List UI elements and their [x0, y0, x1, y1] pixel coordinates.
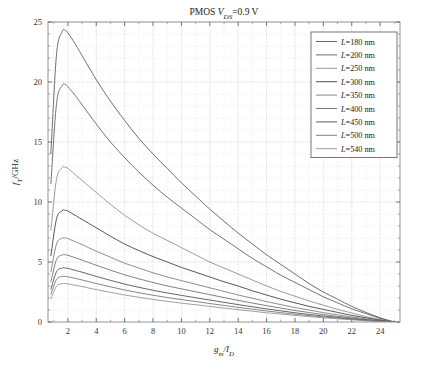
- legend-label: L=450 nm: [340, 118, 376, 127]
- legend-label: L=350 nm: [340, 91, 376, 100]
- legend-label: L=500 nm: [340, 131, 376, 140]
- x-tick-label: 16: [262, 326, 271, 336]
- y-tick-label: 5: [38, 257, 42, 267]
- x-tick-label: 2: [66, 326, 70, 336]
- y-tick-label: 15: [34, 137, 43, 147]
- x-tick-label: 14: [234, 326, 243, 336]
- legend-label: L=180 nm: [340, 38, 376, 47]
- x-tick-label: 24: [376, 326, 385, 336]
- x-tick-label: 8: [151, 326, 155, 336]
- figure-container: 24681012141618202224 0510152025 PMOS VDS…: [0, 0, 427, 369]
- y-tick-label: 10: [34, 197, 43, 207]
- legend-label: L=300 nm: [340, 78, 376, 87]
- legend-label: L=540 nm: [340, 145, 376, 154]
- y-tick-label: 20: [34, 77, 43, 87]
- legend-label: L=200 nm: [340, 51, 376, 60]
- x-tick-label: 20: [319, 326, 328, 336]
- y-tick-label: 0: [38, 317, 42, 327]
- x-tick-label: 12: [206, 326, 215, 336]
- x-tick-label: 4: [94, 326, 99, 336]
- x-tick-label: 22: [347, 326, 356, 336]
- x-tick-label: 6: [123, 326, 127, 336]
- ft-vs-gm-id-chart: 24681012141618202224 0510152025 PMOS VDS…: [0, 0, 427, 369]
- legend-label: L=250 nm: [340, 64, 376, 73]
- y-tick-label: 25: [34, 17, 43, 27]
- x-tick-label: 10: [177, 326, 186, 336]
- legend: L=180 nmL=200 nmL=250 nmL=300 nmL=350 nm…: [311, 32, 397, 158]
- legend-label: L=400 nm: [340, 105, 376, 114]
- x-tick-label: 18: [291, 326, 300, 336]
